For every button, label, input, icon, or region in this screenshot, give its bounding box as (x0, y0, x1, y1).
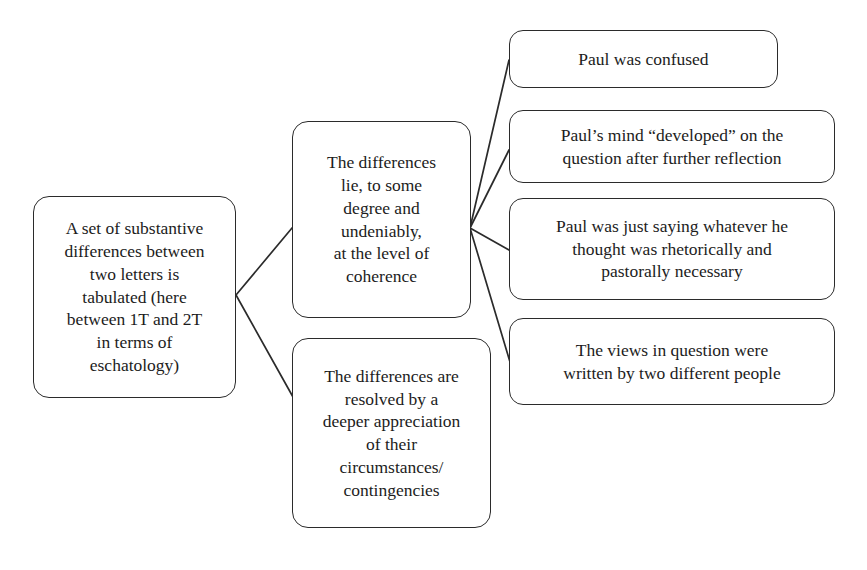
node-leaf-rhetorical[interactable]: Paul was just saying whatever he thought… (509, 198, 835, 300)
diagram-canvas: A set of substantive differences between… (0, 0, 867, 570)
node-root-label: A set of substantive differences between… (44, 217, 225, 376)
node-leaf-developed[interactable]: Paul’s mind “developed” on the question … (509, 110, 835, 183)
node-leaf-twopeople-label: The views in question were written by tw… (520, 339, 824, 385)
node-mid-resolved-label: The differences are resolved by a deeper… (303, 365, 480, 502)
node-mid-coherence-label: The differences lie, to some degree and … (303, 151, 460, 288)
edge-root-to-mid-resolved (236, 295, 293, 397)
node-leaf-confused-label: Paul was confused (520, 48, 767, 71)
node-root[interactable]: A set of substantive differences between… (33, 196, 236, 398)
node-leaf-rhetorical-label: Paul was just saying whatever he thought… (520, 215, 824, 283)
node-leaf-confused[interactable]: Paul was confused (509, 30, 778, 88)
node-mid-resolved[interactable]: The differences are resolved by a deeper… (292, 338, 491, 528)
node-leaf-twopeople[interactable]: The views in question were written by tw… (509, 318, 835, 405)
edge-root-to-mid-coherence (236, 228, 292, 295)
edge-mid-to-leaf-developed (470, 150, 509, 228)
node-mid-coherence[interactable]: The differences lie, to some degree and … (292, 121, 471, 318)
edge-mid-to-leaf-rhetorical (470, 228, 509, 250)
edge-mid-to-leaf-confused (470, 60, 509, 228)
node-leaf-developed-label: Paul’s mind “developed” on the question … (520, 124, 824, 170)
